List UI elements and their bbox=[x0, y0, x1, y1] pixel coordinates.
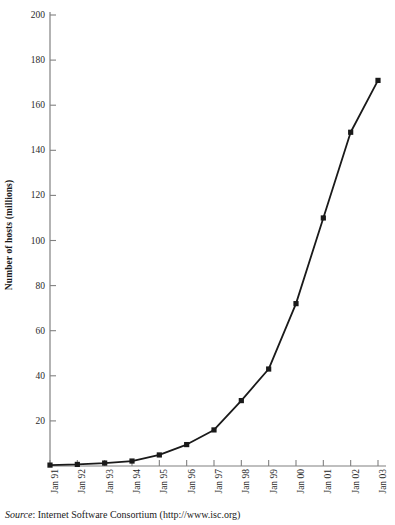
x-tick-label-text: Jan 93 bbox=[105, 469, 116, 494]
x-tick-label-text: Jan 95 bbox=[159, 469, 170, 494]
x-tick-label-text: Jan 92 bbox=[77, 469, 88, 494]
x-tick-label-text: Jan 91 bbox=[50, 469, 61, 494]
data-point-marker bbox=[211, 427, 216, 432]
x-tick-label-text: Jan 99 bbox=[269, 469, 280, 494]
x-tick-label-text: Jan 97 bbox=[214, 469, 225, 494]
x-tick-label-text: Jan 00 bbox=[296, 469, 307, 494]
x-tick-label: Jan 01 bbox=[317, 469, 329, 509]
x-tick-label: Jan 98 bbox=[235, 469, 247, 509]
x-tick-label: Jan 91 bbox=[44, 469, 56, 509]
data-point-marker bbox=[321, 215, 326, 220]
y-axis-ticks bbox=[50, 15, 56, 421]
data-point-marker bbox=[184, 442, 189, 447]
x-tick-label-text: Jan 96 bbox=[187, 469, 198, 494]
x-tick-label: Jan 00 bbox=[290, 469, 302, 509]
x-tick-label: Jan 92 bbox=[71, 469, 83, 509]
x-tick-label-text: Jan 94 bbox=[132, 469, 143, 494]
source-value: Internet Software Consortium (http://www… bbox=[38, 509, 241, 520]
x-tick-label-text: Jan 01 bbox=[323, 469, 334, 494]
host-count-series-markers bbox=[47, 78, 380, 468]
host-growth-chart-figure: Number of hosts (millions) 2040608010012… bbox=[0, 0, 395, 525]
data-point-marker bbox=[47, 463, 52, 468]
data-point-marker bbox=[157, 452, 162, 457]
x-tick-label-text: Jan 03 bbox=[378, 469, 389, 494]
x-tick-label: Jan 02 bbox=[345, 469, 357, 509]
x-tick-label: Jan 03 bbox=[372, 469, 384, 509]
source-label: Source bbox=[5, 509, 32, 520]
data-point-marker bbox=[293, 301, 298, 306]
plot-area bbox=[0, 0, 395, 525]
x-tick-label: Jan 96 bbox=[181, 469, 193, 509]
x-tick-label: Jan 99 bbox=[263, 469, 275, 509]
host-count-series-line bbox=[50, 80, 378, 465]
source-caption: Source: Internet Software Consortium (ht… bbox=[5, 508, 240, 521]
data-point-marker bbox=[266, 366, 271, 371]
x-tick-label: Jan 97 bbox=[208, 469, 220, 509]
data-point-marker bbox=[75, 462, 80, 467]
data-point-marker bbox=[375, 78, 380, 83]
x-tick-label: Jan 95 bbox=[153, 469, 165, 509]
axis-lines bbox=[50, 12, 386, 466]
data-point-marker bbox=[102, 460, 107, 465]
x-tick-label: Jan 93 bbox=[99, 469, 111, 509]
data-point-marker bbox=[239, 398, 244, 403]
x-tick-label-text: Jan 02 bbox=[351, 469, 362, 494]
data-point-marker bbox=[129, 458, 134, 463]
x-tick-label-text: Jan 98 bbox=[241, 469, 252, 494]
x-axis-tick-labels: Jan 91Jan 92Jan 93Jan 94Jan 95Jan 96Jan … bbox=[0, 469, 395, 509]
data-point-marker bbox=[348, 130, 353, 135]
x-tick-label: Jan 94 bbox=[126, 469, 138, 509]
